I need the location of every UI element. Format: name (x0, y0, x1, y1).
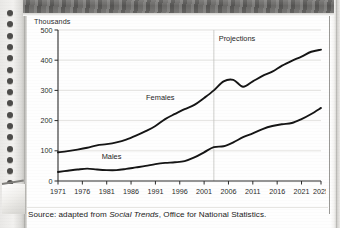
y-tick-label: 200 (41, 116, 53, 125)
x-tick-label: 2025 (313, 187, 326, 196)
line-chart: Thousands 0100200300400500 1971197619811… (30, 17, 326, 205)
x-tick-label: 2021 (294, 187, 310, 196)
spiral-hole (7, 10, 13, 16)
page-right-edge (330, 0, 340, 228)
spiral-hole (7, 146, 13, 152)
page-outer-rule (336, 0, 337, 228)
series-line-males (58, 108, 321, 172)
source-publication-title: Social Trends (109, 210, 159, 219)
page-corner-fold (2, 184, 26, 214)
spiral-hole (7, 44, 13, 50)
gridline-group (58, 30, 321, 151)
x-tick-label-group: 1971197619811986199119962001200620112016… (50, 187, 326, 196)
x-tick-label: 1971 (50, 187, 66, 196)
spiral-hole (7, 33, 13, 39)
chart-plot-area: 0100200300400500 19711976198119861991199… (30, 17, 326, 205)
y-tick-label: 500 (41, 26, 53, 35)
x-tick-label: 2006 (220, 187, 236, 196)
running-title-shadow (23, 13, 334, 16)
x-tick-label: 1986 (123, 187, 139, 196)
source-suffix: , Office for National Statistics. (159, 210, 267, 219)
spiral-hole (7, 123, 13, 129)
x-tick-label: 2016 (269, 187, 285, 196)
spiral-hole (7, 157, 13, 163)
chart-annotation-males: Males (102, 152, 122, 161)
spiral-hole (7, 112, 13, 118)
spiral-hole (7, 78, 13, 84)
y-tick-label: 0 (49, 177, 53, 186)
x-tick-label: 2001 (196, 187, 212, 196)
y-tick-label: 400 (41, 56, 53, 65)
y-tick-label: 300 (41, 86, 53, 95)
y-tick-label-group: 0100200300400500 (41, 26, 53, 186)
source-separator (27, 207, 328, 208)
spiral-hole (7, 67, 13, 73)
series-line-females (58, 50, 321, 153)
chart-annotation-females: Females (146, 93, 175, 102)
x-tick-label: 1981 (99, 187, 115, 196)
page-right-rule (329, 14, 330, 214)
source-caption: Source: adapted from Social Trends, Offi… (28, 210, 334, 219)
x-tick-label: 1991 (147, 187, 163, 196)
y-tick-label: 100 (41, 146, 53, 155)
x-tick-label: 1976 (74, 187, 90, 196)
chart-annotation-projections: Projections (219, 34, 256, 43)
scanned-textbook-page: Thousands 0100200300400500 1971197619811… (0, 0, 340, 228)
running-title-band (23, 0, 334, 13)
source-prefix: Source: adapted from (28, 210, 109, 219)
x-tick-label: 2011 (245, 187, 260, 196)
x-tick-label: 1996 (172, 187, 188, 196)
